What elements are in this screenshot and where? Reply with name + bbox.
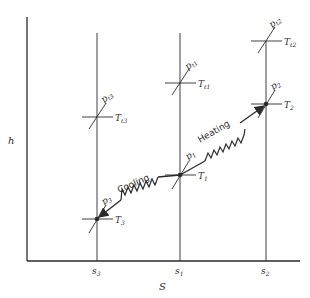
s3-tick-label: s3: [92, 266, 101, 277]
cooling-label: Cooling: [116, 172, 151, 194]
s2-tick-label: s2: [261, 266, 270, 277]
tt2-label: Tt2: [284, 37, 296, 48]
stagnation-point-t2: [251, 27, 282, 53]
p2-label: p2: [268, 78, 282, 93]
y-axis-label: h: [8, 135, 14, 146]
stagnation-point-t3: [82, 103, 113, 129]
x-axis-label: S: [159, 281, 166, 292]
t3-label: T3: [115, 215, 125, 226]
heating-label: Heating: [196, 118, 232, 144]
tt3-label: Tt3: [115, 113, 127, 124]
stagnation-point-t1: [165, 69, 196, 95]
tt1-label: Tt1: [198, 79, 210, 90]
p3-label: p3: [99, 193, 113, 208]
pt3-label: pt3: [99, 89, 115, 105]
t2-label: T2: [284, 100, 294, 111]
pt2-label: pt2: [267, 14, 283, 30]
pt1-label: pt1: [183, 56, 199, 72]
t1-label: T1: [198, 171, 208, 182]
state-point-2: [251, 90, 282, 118]
p1-label: p1: [183, 148, 197, 163]
heating-process: [180, 106, 264, 175]
s1-tick-label: s1: [175, 266, 183, 277]
h-s-diagram: Heating Cooling pt3 Tt3 pt1 Tt1 pt2 Tt2 …: [0, 0, 310, 298]
